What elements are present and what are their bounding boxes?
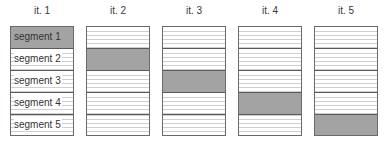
column-title: it. 2 bbox=[86, 5, 150, 17]
segment-label: segment 2 bbox=[14, 53, 62, 65]
segment-4: segment 4 bbox=[11, 93, 73, 115]
column-title: it. 3 bbox=[162, 5, 226, 17]
segment-label: segment 4 bbox=[14, 97, 62, 109]
segment-3 bbox=[87, 71, 149, 93]
segment-stack: segment 1 segment 2 segment 3 segment 4 … bbox=[10, 26, 74, 136]
segment-1 bbox=[163, 27, 225, 49]
segment-4 bbox=[315, 93, 377, 115]
segment-1 bbox=[239, 27, 301, 49]
segment-1 bbox=[87, 27, 149, 49]
segment-stack bbox=[238, 26, 302, 136]
segment-stack bbox=[162, 26, 226, 136]
segment-label: segment 1 bbox=[14, 31, 61, 43]
segment-4-active bbox=[239, 93, 301, 115]
segment-stack bbox=[314, 26, 378, 136]
segment-2 bbox=[163, 49, 225, 71]
segment-1-active: segment 1 bbox=[11, 27, 73, 49]
segment-5: segment 5 bbox=[11, 115, 73, 135]
segment-label: segment 3 bbox=[14, 75, 62, 87]
segment-4 bbox=[163, 93, 225, 115]
segment-1 bbox=[315, 27, 377, 49]
segment-label: segment 5 bbox=[14, 119, 62, 131]
segment-2-active bbox=[87, 49, 149, 71]
segment-3: segment 3 bbox=[11, 71, 73, 93]
column-title: it. 4 bbox=[238, 5, 302, 17]
segment-5-active bbox=[315, 115, 377, 135]
segment-5 bbox=[163, 115, 225, 135]
segment-4 bbox=[87, 93, 149, 115]
segment-2 bbox=[239, 49, 301, 71]
segment-3 bbox=[315, 71, 377, 93]
segment-2: segment 2 bbox=[11, 49, 73, 71]
segment-3 bbox=[239, 71, 301, 93]
segment-3-active bbox=[163, 71, 225, 93]
segment-5 bbox=[239, 115, 301, 135]
segment-stack bbox=[86, 26, 150, 136]
segment-2 bbox=[315, 49, 377, 71]
column-title: it. 1 bbox=[10, 5, 74, 17]
column-title: it. 5 bbox=[314, 5, 378, 17]
segment-5 bbox=[87, 115, 149, 135]
